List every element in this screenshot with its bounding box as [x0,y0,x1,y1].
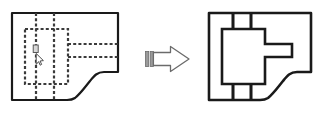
technical-drawing-canvas [0,0,317,120]
arrow-tail-stripe-1 [146,52,149,67]
mouse-pointer-box [33,45,38,53]
